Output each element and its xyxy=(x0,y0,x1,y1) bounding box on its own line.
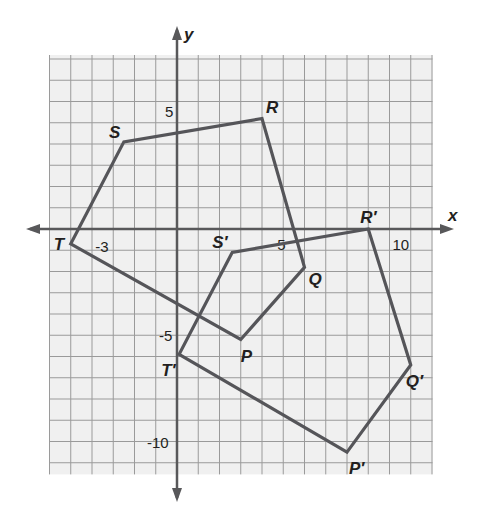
x-axis-label: x xyxy=(447,206,459,225)
y-tick-label: 5 xyxy=(165,103,173,120)
vertex-label: T′ xyxy=(161,361,176,380)
y-tick-label: -5 xyxy=(159,327,172,344)
vertex-label: T xyxy=(54,235,66,254)
vertex-label: Q xyxy=(309,270,322,289)
vertex-label: S′ xyxy=(212,233,228,252)
y-axis-label: y xyxy=(183,25,195,44)
vertex-label: R′ xyxy=(360,208,377,227)
y-axis-arrow-down xyxy=(172,488,182,502)
x-axis-arrow-right xyxy=(440,224,454,234)
x-tick-label: 10 xyxy=(393,236,410,253)
vertex-label: P xyxy=(241,347,253,366)
vertex-label: S xyxy=(109,123,121,142)
x-tick-label: -3 xyxy=(95,238,108,255)
vertex-label: R xyxy=(266,98,279,117)
x-axis-arrow-left xyxy=(26,224,40,234)
y-tick-label: -10 xyxy=(147,434,169,451)
vertex-label: Q′ xyxy=(406,372,424,391)
y-axis-arrow-up xyxy=(172,26,182,40)
coordinate-plane: xy-35105-5-10PQRSTP′Q′R′S′T′ xyxy=(0,0,480,523)
vertex-label: P′ xyxy=(349,459,365,478)
